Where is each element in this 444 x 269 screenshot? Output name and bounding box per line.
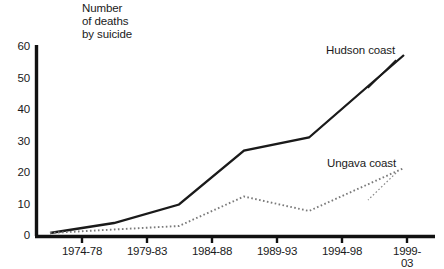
leader-line-hudson-coast xyxy=(368,60,396,88)
x-tick-label-1999-03: 1999-03 xyxy=(389,245,426,269)
series-label-hudson-coast: Hudson coast xyxy=(326,44,395,56)
series-label-ungava-coast: Ungava coast xyxy=(327,157,396,169)
x-tick-label-1979-83: 1979-83 xyxy=(127,245,167,257)
x-tick-label-1984-88: 1984-88 xyxy=(192,245,232,257)
x-tick-label-1994-98: 1994-98 xyxy=(322,245,362,257)
series-line-ungava-coast xyxy=(50,168,404,233)
series-line-hudson-coast xyxy=(50,55,404,233)
leader-line-ungava-coast xyxy=(368,173,396,200)
x-tick-label-1974-78: 1974-78 xyxy=(62,245,102,257)
x-tick-label-1989-93: 1989-93 xyxy=(257,245,297,257)
axis-lines xyxy=(35,45,435,237)
